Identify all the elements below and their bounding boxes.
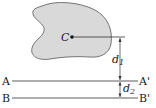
centroid-label: C [61, 31, 70, 44]
axis-b-left-label: B [2, 92, 10, 105]
d2-label: d2 [123, 82, 135, 96]
d1-arrow-top [119, 38, 122, 42]
axis-b-right-label: B' [139, 92, 150, 105]
area-shape [32, 3, 112, 60]
axis-a-right-label: A' [138, 75, 150, 88]
d1-label: d1 [112, 53, 124, 67]
d2-arrow-top [119, 82, 122, 86]
centroid-dot [70, 35, 74, 39]
d1-arrow-bottom [119, 76, 122, 80]
axis-a-left-label: A [1, 75, 11, 88]
parallel-axis-diagram: C d1 A A' d2 B B' [0, 0, 156, 108]
d2-arrow-bottom [119, 94, 122, 98]
